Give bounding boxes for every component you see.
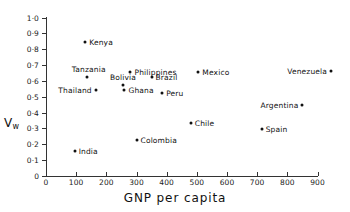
- y-tick-mark: [42, 81, 46, 82]
- x-tick-mark: [106, 172, 107, 176]
- y-tick-mark: [42, 33, 46, 34]
- data-point: [121, 83, 124, 86]
- data-point: [197, 71, 200, 74]
- y-tick-label: 0·7: [13, 61, 39, 70]
- data-point: [161, 91, 164, 94]
- data-point-label: Kenya: [89, 38, 113, 47]
- y-axis-title-base: V: [4, 116, 13, 130]
- data-point-label: Colombia: [141, 136, 177, 145]
- x-tick-label: 300: [129, 178, 144, 187]
- y-axis-line: [46, 17, 47, 176]
- x-tick-label: 200: [99, 178, 114, 187]
- x-tick-label: 700: [250, 178, 265, 187]
- y-tick-label: 0·8: [13, 45, 39, 54]
- data-point: [189, 121, 192, 124]
- data-point: [260, 128, 263, 131]
- y-tick-mark: [42, 144, 46, 145]
- y-axis-title-subscript: w: [13, 122, 20, 131]
- y-tick-label: 0·2: [13, 140, 39, 149]
- x-tick-label: 900: [310, 178, 325, 187]
- x-tick-mark: [287, 172, 288, 176]
- x-tick-mark: [46, 172, 47, 176]
- x-tick-label: 800: [280, 178, 295, 187]
- data-point-label: Peru: [166, 88, 183, 97]
- data-point: [84, 41, 87, 44]
- data-point-label: Thailand: [58, 85, 91, 94]
- x-axis-title: GNP per capita: [124, 191, 227, 205]
- scatter-plot: 0100200300400500600700800900 00·10·20·30…: [0, 0, 350, 212]
- x-tick-label: 500: [190, 178, 205, 187]
- y-tick-mark: [42, 18, 46, 19]
- y-tick-mark: [42, 176, 46, 177]
- x-axis-line: [46, 176, 318, 177]
- data-point: [150, 75, 153, 78]
- y-tick-label: 0·9: [13, 29, 39, 38]
- data-point: [135, 139, 138, 142]
- x-tick-label: 600: [220, 178, 235, 187]
- y-tick-mark: [42, 113, 46, 114]
- data-point: [94, 88, 97, 91]
- y-tick-mark: [42, 160, 46, 161]
- data-point-label: India: [79, 147, 98, 156]
- data-point: [301, 104, 304, 107]
- data-point-label: Spain: [266, 125, 288, 134]
- y-tick-mark: [42, 97, 46, 98]
- data-point-label: Argentina: [260, 101, 298, 110]
- x-tick-mark: [167, 172, 168, 176]
- y-tick-label: 0·6: [13, 76, 39, 85]
- x-tick-mark: [227, 172, 228, 176]
- y-tick-label: 0·1: [13, 156, 39, 165]
- y-axis-title: Vw: [4, 116, 19, 131]
- x-tick-mark: [197, 172, 198, 176]
- x-tick-label: 400: [159, 178, 174, 187]
- y-tick-label: 0: [13, 172, 39, 181]
- data-point-label: Venezuela: [287, 66, 327, 75]
- data-point: [85, 75, 88, 78]
- x-tick-mark: [318, 172, 319, 176]
- y-tick-label: 0·5: [13, 92, 39, 101]
- y-tick-mark: [42, 65, 46, 66]
- data-point-label: Tanzania: [72, 64, 106, 73]
- data-point: [330, 69, 333, 72]
- x-tick-mark: [137, 172, 138, 176]
- x-tick-label: 0: [44, 178, 49, 187]
- y-tick-mark: [42, 128, 46, 129]
- x-tick-mark: [76, 172, 77, 176]
- data-point: [123, 88, 126, 91]
- data-point-label: Ghana: [128, 85, 153, 94]
- y-tick-label: 1·0: [13, 13, 39, 22]
- x-tick-mark: [257, 172, 258, 176]
- x-tick-label: 100: [69, 178, 84, 187]
- data-point-label: Bolivia: [110, 72, 136, 81]
- data-point: [73, 150, 76, 153]
- data-point-label: Mexico: [202, 68, 229, 77]
- data-point-label: Chile: [195, 118, 215, 127]
- data-point-label: Brazil: [156, 72, 178, 81]
- y-tick-mark: [42, 49, 46, 50]
